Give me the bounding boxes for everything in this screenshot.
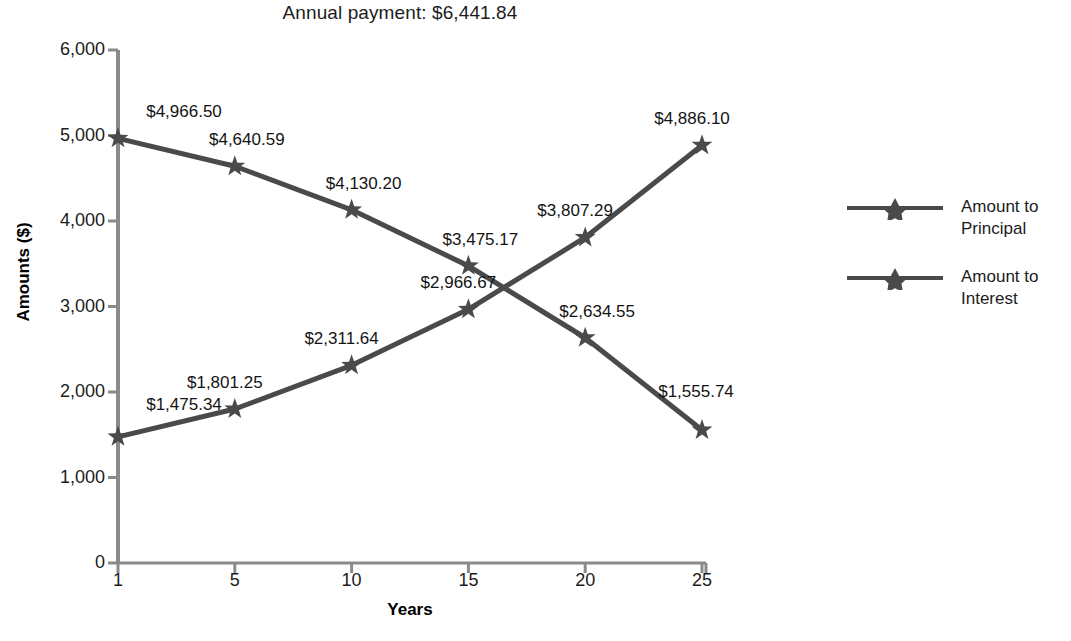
data-label: $2,634.55 xyxy=(559,302,635,322)
data-label: $2,966.67 xyxy=(421,273,497,293)
legend-swatch-principal xyxy=(845,196,945,220)
series-marker xyxy=(224,155,245,175)
chart-container: Annual payment: $6,441.84 Amounts ($) Ye… xyxy=(0,0,1071,641)
legend-item-principal[interactable]: Amount to Principal xyxy=(845,196,1071,240)
data-label: $4,640.59 xyxy=(209,130,285,150)
legend: Amount to Principal Amount to Interest xyxy=(845,196,1071,336)
legend-swatch-interest xyxy=(845,266,945,290)
data-label: $1,475.34 xyxy=(146,395,222,415)
legend-item-interest[interactable]: Amount to Interest xyxy=(845,266,1071,310)
data-label: $3,475.17 xyxy=(443,230,519,250)
data-label: $1,555.74 xyxy=(658,382,734,402)
series-marker xyxy=(224,398,245,418)
data-label: $4,886.10 xyxy=(654,109,730,129)
data-label: $1,801.25 xyxy=(187,373,263,393)
series-marker xyxy=(341,354,362,374)
data-label: $3,807.29 xyxy=(537,201,613,221)
legend-label-principal: Amount to Principal xyxy=(961,196,1069,240)
series-line-principal xyxy=(118,145,702,437)
legend-label-interest: Amount to Interest xyxy=(961,266,1069,310)
data-label: $2,311.64 xyxy=(304,329,378,349)
data-label: $4,966.50 xyxy=(146,102,222,122)
data-label: $4,130.20 xyxy=(326,174,402,194)
